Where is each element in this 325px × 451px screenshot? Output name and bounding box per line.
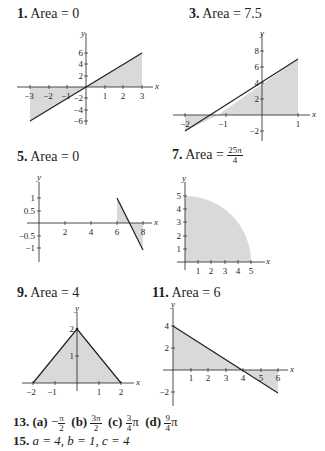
svg-text:6: 6: [79, 48, 84, 58]
svg-text:−0.5: −0.5: [19, 231, 36, 241]
graph-11: 123 456 42−2 y x: [159, 299, 294, 406]
svg-text:3: 3: [140, 91, 145, 101]
graph-1: −3−2−1 123 642 −2−4−6 y x: [17, 28, 159, 126]
answer-13: 13. (a) −π2 (b) 3π2 (c) 34π (d) 94π: [13, 414, 177, 433]
svg-text:3: 3: [177, 217, 182, 227]
svg-text:1: 1: [70, 351, 75, 361]
graph-9: −2−112 21 y x: [22, 303, 140, 397]
svg-text:8: 8: [141, 227, 146, 237]
svg-text:−6: −6: [73, 116, 83, 126]
svg-text:4: 4: [241, 373, 246, 383]
svg-text:0.5: 0.5: [24, 206, 36, 216]
svg-text:−2: −2: [159, 387, 169, 397]
svg-text:5: 5: [249, 266, 254, 276]
svg-text:1: 1: [97, 387, 102, 397]
svg-text:y: y: [170, 299, 175, 309]
svg-text:5: 5: [259, 373, 264, 383]
svg-text:x: x: [311, 109, 316, 119]
svg-text:−2: −2: [249, 126, 259, 136]
svg-text:4: 4: [255, 78, 260, 88]
svg-text:−1: −1: [61, 91, 71, 101]
svg-text:x: x: [289, 364, 294, 374]
svg-text:1: 1: [31, 193, 36, 203]
graphs: −3−2−1 123 642 −2−4−6 y x −2−11 864 2−2 …: [0, 0, 325, 451]
svg-text:2: 2: [165, 343, 170, 353]
svg-text:1: 1: [103, 91, 108, 101]
svg-text:−2: −2: [43, 91, 53, 101]
svg-text:x: x: [135, 377, 140, 387]
svg-text:y: y: [259, 28, 264, 38]
svg-text:4: 4: [89, 227, 94, 237]
svg-text:−2: −2: [26, 387, 36, 397]
svg-text:y: y: [36, 172, 41, 182]
graph-3: −2−11 864 2−2 y x: [173, 28, 316, 141]
svg-text:5: 5: [177, 191, 182, 201]
svg-text:6: 6: [255, 62, 260, 72]
svg-text:4: 4: [177, 204, 182, 214]
svg-text:x: x: [265, 256, 270, 266]
svg-text:−2: −2: [73, 93, 83, 103]
svg-text:1: 1: [196, 266, 201, 276]
svg-text:4: 4: [236, 266, 241, 276]
svg-text:8: 8: [255, 46, 260, 56]
svg-text:2: 2: [119, 387, 124, 397]
svg-text:−2: −2: [180, 119, 190, 129]
svg-text:1: 1: [189, 373, 194, 383]
svg-text:1: 1: [177, 244, 182, 254]
svg-text:1: 1: [296, 119, 301, 129]
svg-text:2: 2: [206, 373, 211, 383]
svg-text:3: 3: [223, 266, 228, 276]
svg-text:6: 6: [115, 227, 120, 237]
graph-7: 12345 12345 y x: [177, 173, 271, 276]
svg-text:−1: −1: [218, 119, 228, 129]
graph-5: 2468 10.5−0.5−1 y x: [19, 172, 158, 262]
svg-text:2: 2: [255, 94, 260, 104]
svg-text:4: 4: [79, 59, 84, 69]
svg-text:y: y: [80, 28, 85, 38]
svg-text:2: 2: [63, 227, 68, 237]
svg-text:−4: −4: [73, 105, 83, 115]
svg-text:x: x: [153, 217, 158, 227]
svg-text:2: 2: [177, 231, 182, 241]
svg-text:x: x: [154, 81, 159, 91]
svg-text:6: 6: [276, 373, 281, 383]
svg-text:4: 4: [165, 321, 170, 331]
svg-text:3: 3: [224, 373, 229, 383]
svg-text:−1: −1: [47, 387, 57, 397]
svg-text:2: 2: [121, 91, 126, 101]
svg-text:y: y: [181, 173, 186, 183]
svg-text:−1: −1: [25, 243, 35, 253]
svg-text:2: 2: [79, 71, 84, 81]
svg-text:y: y: [74, 303, 79, 313]
svg-text:2: 2: [70, 324, 75, 334]
svg-text:−3: −3: [24, 91, 34, 101]
answer-15: 15. a = 4, b = 1, c = 4: [13, 433, 130, 449]
svg-text:2: 2: [209, 266, 214, 276]
